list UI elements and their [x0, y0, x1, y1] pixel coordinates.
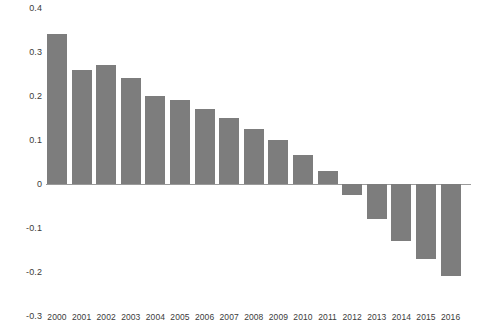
bar [195, 109, 215, 184]
x-axis-tick-label: 2008 [241, 312, 267, 323]
bar-chart: 2000200120022003200420052006200720082009… [0, 0, 477, 331]
bar [293, 155, 313, 184]
y-axis-tick-label: -0.1 [2, 223, 42, 233]
x-axis-tick-label: 2005 [167, 312, 193, 323]
bar [391, 184, 411, 241]
x-axis-tick-label: 2010 [290, 312, 316, 323]
x-axis-tick-label: 2003 [118, 312, 144, 323]
plot-area [46, 8, 471, 303]
y-axis-tick-label: -0.2 [2, 267, 42, 277]
x-axis-tick-label: 2011 [315, 312, 341, 323]
bar [121, 78, 141, 184]
bar [342, 184, 362, 195]
bar [219, 118, 239, 184]
y-axis-tick-label: 0.3 [2, 47, 42, 57]
x-axis-tick-label: 2006 [192, 312, 218, 323]
x-axis-tick-label: 2015 [413, 312, 439, 323]
y-axis-tick-label: 0.1 [2, 135, 42, 145]
x-axis-tick-label: 2007 [216, 312, 242, 323]
bar [441, 184, 461, 276]
x-axis-tick-label: 2004 [142, 312, 168, 323]
x-axis-tick-label: 2002 [93, 312, 119, 323]
bar [367, 184, 387, 219]
y-axis-tick-label: 0.4 [2, 3, 42, 13]
x-axis-tick-label: 2013 [364, 312, 390, 323]
x-axis-tick-label: 2016 [438, 312, 464, 323]
y-axis-tick-label: 0.2 [2, 91, 42, 101]
bar [416, 184, 436, 259]
bar [268, 140, 288, 184]
x-axis-tick-label: 2009 [265, 312, 291, 323]
bar [244, 129, 264, 184]
y-axis-tick-label: -0.3 [2, 311, 42, 321]
bar [318, 171, 338, 184]
x-axis: 2000200120022003200420052006200720082009… [46, 312, 471, 326]
y-axis-tick-label: 0 [2, 179, 42, 189]
bar [47, 34, 67, 184]
bar [72, 70, 92, 184]
x-axis-tick-label: 2014 [388, 312, 414, 323]
x-axis-tick-label: 2012 [339, 312, 365, 323]
bar [170, 100, 190, 184]
x-axis-tick-label: 2001 [69, 312, 95, 323]
bar [96, 65, 116, 184]
x-axis-tick-label: 2000 [44, 312, 70, 323]
bar [145, 96, 165, 184]
